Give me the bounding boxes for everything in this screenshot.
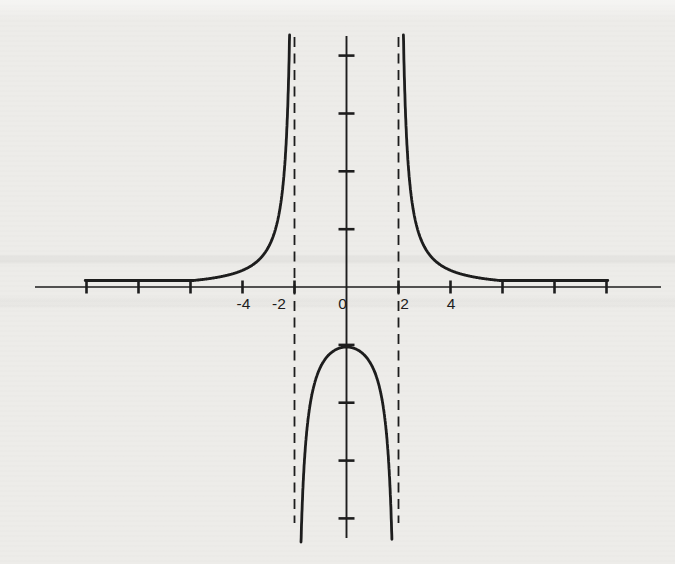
curve-right-branch xyxy=(403,35,607,281)
x-tick-label: 2 xyxy=(400,295,409,312)
x-tick-label: -4 xyxy=(237,295,251,312)
curve-left-branch xyxy=(85,35,289,281)
x-tick-label: 0 xyxy=(338,295,347,312)
graph-canvas: -4-2024 xyxy=(0,0,675,564)
figure: -4-2024 xyxy=(0,0,675,564)
x-tick-label: 4 xyxy=(447,295,456,312)
x-tick-label: -2 xyxy=(272,295,286,312)
